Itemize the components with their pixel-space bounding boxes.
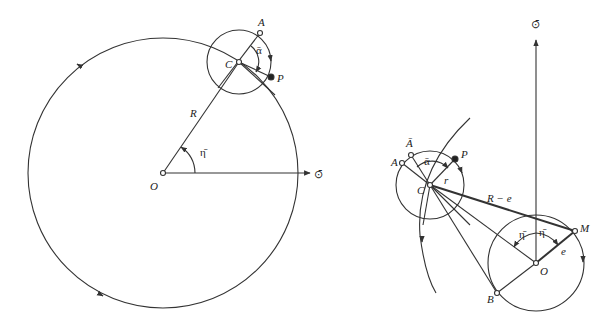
point-M [573,229,578,234]
point-C [237,60,242,65]
label-eta-1: η̄ [519,228,527,240]
label-alpha-right: ᾱ [424,155,430,167]
line-OB [497,263,536,293]
label-O-right: O [540,265,548,277]
label-O: O [150,180,158,192]
label-R-minus-e: R − e [486,192,512,204]
left-labels: A C P R O ᾱ η̄ ⊙̄ [150,16,323,192]
label-M: M [579,222,590,234]
label-A: A [257,16,265,28]
label-eta-2: η̄ [539,226,547,238]
point-O-right [534,261,539,266]
point-B [495,291,500,296]
diagram-canvas: A C P R O ᾱ η̄ ⊙̄ [0,0,611,335]
label-eta: η̄ [200,146,208,158]
label-e: e [561,245,566,257]
label-C: C [225,58,233,70]
point-P [268,74,274,80]
line-CO [430,185,536,263]
label-C-right: C [417,184,425,196]
label-axis: ⊙̄ [314,168,323,180]
label-Abar: Ā [405,137,413,149]
line-CP [430,159,455,185]
point-A-right [400,161,405,166]
right-diagram [396,40,584,311]
label-R: R [189,107,197,119]
orbit-arc [420,118,470,293]
label-axis-right: ⊙̄ [531,18,540,30]
label-alpha: ᾱ [256,44,262,56]
point-A [258,31,263,36]
eta-arc [181,147,195,173]
right-labels: Ā A ᾱ P r C R − e η̄ η̄ M e O B ⊙̄ [390,18,590,305]
label-r: r [444,174,449,186]
label-P-right: P [460,148,468,160]
label-A-right: A [390,156,398,168]
point-P-right [452,156,458,162]
eta-arc-left [514,233,536,247]
label-P: P [276,72,284,84]
point-O [161,171,166,176]
point-C-right [428,183,433,188]
point-Abar [409,153,414,158]
left-diagram [28,30,310,308]
label-B: B [487,293,494,305]
